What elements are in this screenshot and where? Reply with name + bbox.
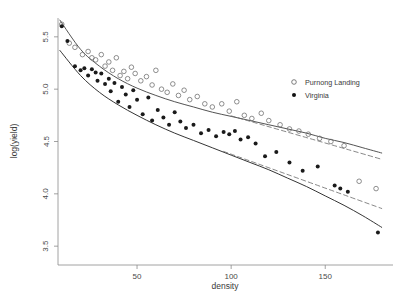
data-point-filled xyxy=(96,79,100,83)
data-point-filled xyxy=(274,150,278,154)
data-point-filled xyxy=(287,160,291,164)
data-point-filled xyxy=(116,100,120,104)
data-point-filled xyxy=(214,134,218,138)
data-point-filled xyxy=(222,130,226,134)
data-point-filled xyxy=(135,98,139,102)
data-point-filled xyxy=(178,120,182,124)
data-point-filled xyxy=(73,64,77,68)
data-point-filled xyxy=(141,112,145,116)
data-point-filled xyxy=(254,142,258,146)
x-tick-label: 50 xyxy=(133,272,142,281)
data-point-filled xyxy=(107,77,111,81)
data-point-filled xyxy=(376,231,380,235)
data-point-filled xyxy=(207,128,211,132)
data-point-filled xyxy=(109,89,113,93)
figure-background xyxy=(0,0,410,304)
data-point-filled xyxy=(79,68,83,72)
data-point-filled xyxy=(239,137,243,141)
data-point-filled xyxy=(199,131,203,135)
data-point-filled xyxy=(120,85,124,89)
legend-label: Purnong Landing xyxy=(305,78,360,87)
data-point-filled xyxy=(103,82,107,86)
data-point-filled xyxy=(86,74,90,78)
y-tick-label: 3.5 xyxy=(42,240,51,252)
x-axis-label: density xyxy=(212,281,240,291)
data-point-filled xyxy=(316,165,320,169)
data-point-filled xyxy=(173,110,177,114)
data-point-filled xyxy=(246,135,250,139)
legend-label: Virginia xyxy=(305,91,329,100)
data-point-filled xyxy=(227,132,231,136)
data-point-filled xyxy=(156,108,160,112)
data-point-filled xyxy=(128,105,132,109)
data-point-filled xyxy=(112,81,116,85)
x-tick-label: 150 xyxy=(319,272,333,281)
y-tick-label: 4.0 xyxy=(42,188,51,200)
data-point-filled xyxy=(99,71,103,75)
data-point-filled xyxy=(90,67,94,71)
y-tick-label: 5.5 xyxy=(42,31,51,43)
data-point-filled xyxy=(146,96,150,100)
data-point-filled xyxy=(184,126,188,130)
plot-canvas: 50100150 3.54.04.55.05.5 density log(yie… xyxy=(0,0,410,304)
data-point-filled xyxy=(167,123,171,127)
y-tick-label: 5.0 xyxy=(42,83,51,95)
scatter-plot-figure: 50100150 3.54.04.55.05.5 density log(yie… xyxy=(0,0,410,304)
data-point-filled xyxy=(263,154,267,158)
legend-marker-filled-circle xyxy=(292,93,296,97)
data-point-filled xyxy=(333,183,337,187)
x-tick-label: 100 xyxy=(224,272,238,281)
data-point-filled xyxy=(301,169,305,173)
y-tick-label: 4.5 xyxy=(42,135,51,147)
data-point-filled xyxy=(131,88,135,92)
data-point-filled xyxy=(161,115,165,119)
data-point-filled xyxy=(192,123,196,127)
data-point-filled xyxy=(124,92,128,96)
data-point-filled xyxy=(60,24,64,28)
data-point-filled xyxy=(346,190,350,194)
data-point-filled xyxy=(94,70,98,74)
data-point-filled xyxy=(82,66,86,70)
data-point-filled xyxy=(233,129,237,133)
y-axis-label: log(yield) xyxy=(9,124,19,159)
data-point-filled xyxy=(150,119,154,123)
data-point-filled xyxy=(65,39,69,43)
data-point-filled xyxy=(338,187,342,191)
